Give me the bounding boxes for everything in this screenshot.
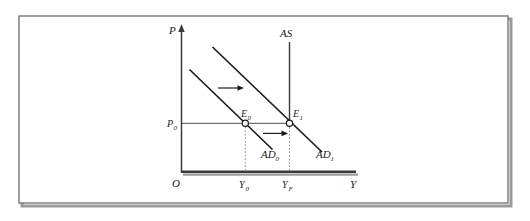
as-curve-label: AS <box>279 27 293 39</box>
figure-root: P Y O AS AD 0 AD 1 E 0 E 1 P 0 <box>0 0 530 221</box>
svg-text:0: 0 <box>174 124 178 132</box>
svg-text:0: 0 <box>248 114 252 122</box>
svg-text:1: 1 <box>331 155 335 163</box>
svg-text:E: E <box>292 108 299 119</box>
ad-as-diagram: P Y O AS AD 0 AD 1 E 0 E 1 P 0 <box>0 0 530 221</box>
svg-text:AD: AD <box>260 148 276 160</box>
svg-text:1: 1 <box>300 114 304 122</box>
svg-text:E: E <box>240 108 247 119</box>
svg-text:P: P <box>166 118 173 129</box>
point-marker-e1 <box>286 120 292 126</box>
svg-text:AD: AD <box>315 148 331 160</box>
y-axis-label: P <box>168 24 176 36</box>
svg-text:F: F <box>288 185 294 193</box>
svg-text:0: 0 <box>276 155 280 163</box>
origin-label: O <box>172 177 180 189</box>
svg-text:0: 0 <box>246 185 250 193</box>
